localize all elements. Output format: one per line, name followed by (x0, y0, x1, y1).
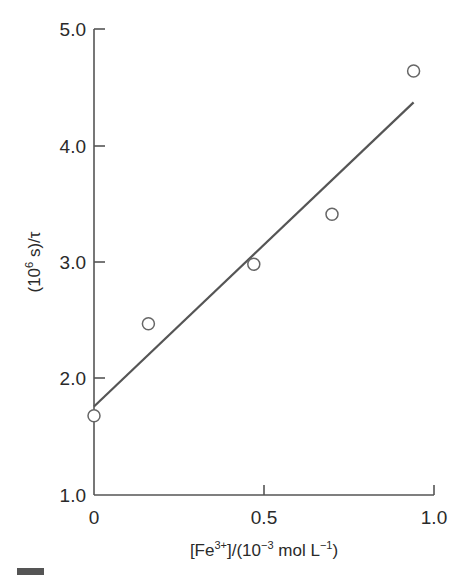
x-axis-label: [Fe3+]/(10−3 mol L−1) (190, 539, 338, 560)
x-tick-label: 0.5 (251, 507, 277, 528)
x-tick-label: 1.0 (421, 507, 447, 528)
fit-line-layer (94, 102, 414, 406)
y-tick-label: 4.0 (60, 136, 86, 157)
data-point (248, 258, 260, 270)
y-tick-label: 5.0 (60, 19, 86, 40)
y-tick-label: 2.0 (60, 368, 86, 389)
corner-mark (17, 568, 44, 575)
y-axis-label: (106 s)/τ (23, 231, 44, 292)
data-point (326, 208, 338, 220)
axes (94, 29, 434, 495)
data-points-layer (88, 65, 420, 422)
data-point (88, 410, 100, 422)
data-point (408, 65, 420, 77)
y-tick-label: 3.0 (60, 252, 86, 273)
data-point (142, 318, 154, 330)
scatter-plot: 5.0 4.0 3.0 2.0 1.0 0 0.5 1.0 [Fe3+]/(10… (0, 0, 463, 575)
fit-line (94, 102, 414, 406)
x-tick-labels: 0 0.5 1.0 (89, 507, 448, 528)
x-tick-label: 0 (89, 507, 100, 528)
y-tick-label: 1.0 (60, 485, 86, 506)
y-tick-labels: 5.0 4.0 3.0 2.0 1.0 (60, 19, 86, 506)
